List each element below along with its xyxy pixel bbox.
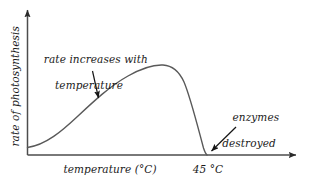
x-axis-label: temperature (°C) [58,163,162,176]
annotation-enzymes-line2: destroyed [214,137,284,150]
annotation-rate-line2: temperature [28,79,150,92]
annotation-rate-line1: rate increases with [44,53,148,65]
y-axis-label: rate of photosynthesis [9,27,22,147]
annotation-rate-increases: rate increases with temperature [28,40,150,118]
annotation-enzymes-destroyed: enzymes destroyed [214,98,284,176]
photosynthesis-temperature-graph: rate of photosynthesis temperature (°C) … [0,0,309,183]
annotation-enzymes-line1: enzymes [233,111,280,123]
